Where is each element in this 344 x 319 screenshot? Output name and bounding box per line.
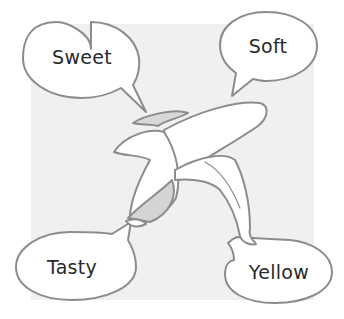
- bubble-label-yellow: Yellow: [244, 261, 314, 283]
- bubble-label-sweet: Sweet: [44, 46, 120, 68]
- bubble-label-tasty: Tasty: [42, 256, 102, 278]
- bubble-label-soft: Soft: [240, 35, 296, 57]
